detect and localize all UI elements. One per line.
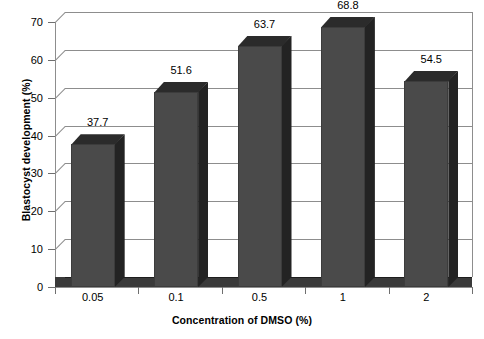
bar-value-label: 51.6 (142, 65, 220, 76)
bar-column (321, 17, 375, 287)
y-tick-mark (48, 98, 55, 99)
gridline-depth-connector (55, 50, 66, 61)
y-tick-label: 70 (15, 17, 43, 28)
gridline-depth-connector (55, 239, 66, 250)
y-tick-mark (48, 287, 55, 288)
bar-value-label: 68.8 (309, 0, 387, 11)
gridline-depth-connector (55, 88, 66, 99)
bar-front-face (238, 46, 282, 287)
x-tick-label: 2 (386, 292, 466, 303)
bar-side-face (365, 17, 375, 287)
x-tick-label: 0.5 (220, 292, 300, 303)
x-tick-label: 0.1 (136, 292, 216, 303)
x-axis-title: Concentration of DMSO (%) (0, 314, 484, 326)
gridline-depth-connector (55, 12, 66, 23)
bar-column (71, 134, 125, 287)
y-tick-mark (48, 60, 55, 61)
y-tick-label: 0 (15, 282, 43, 293)
bar-value-label: 54.5 (392, 54, 470, 65)
x-tick-label: 1 (303, 292, 383, 303)
plot-floor-corner (55, 277, 65, 287)
x-tick-mark (55, 287, 56, 294)
gridline-depth-connector (55, 163, 66, 174)
x-axis-line (55, 287, 472, 288)
bar-side-face (198, 82, 208, 287)
x-tick-label: 0.05 (53, 292, 133, 303)
y-tick-mark (48, 136, 55, 137)
y-tick-mark (48, 211, 55, 212)
bar-front-face (404, 81, 448, 287)
bar-column (154, 82, 208, 287)
bar-side-face (115, 134, 125, 287)
bar-value-label: 63.7 (226, 19, 304, 30)
x-tick-mark (472, 287, 473, 294)
chart-container: 010203040506070 0.050.10.512 37.751.663.… (0, 0, 484, 339)
bar-front-face (321, 27, 365, 287)
bar-front-face (71, 144, 115, 287)
plot-right-border (472, 12, 473, 277)
y-tick-mark (48, 249, 55, 250)
bar-column (404, 71, 458, 287)
bar-value-label: 37.7 (59, 117, 137, 128)
bar-side-face (448, 71, 458, 287)
gridline-depth-connector (55, 201, 66, 212)
gridline (65, 12, 472, 13)
bar-side-face (282, 36, 292, 287)
bar-front-face (154, 92, 198, 287)
bar-column (238, 36, 292, 287)
y-axis-title: Blastocyst development (%) (20, 40, 32, 260)
y-tick-mark (48, 173, 55, 174)
y-tick-mark (48, 22, 55, 23)
plot-area: 010203040506070 0.050.10.512 37.751.663.… (0, 0, 484, 339)
